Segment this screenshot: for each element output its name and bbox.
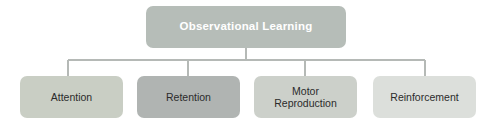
child-node-reinforcement-label: Reinforcement [386,91,462,103]
child-node-motor-reproduction: Motor Reproduction [254,76,357,118]
root-node-label: Observational Learning [180,20,313,34]
child-node-attention: Attention [20,76,123,118]
child-node-reinforcement: Reinforcement [373,76,476,118]
root-node-observational-learning: Observational Learning [146,6,346,48]
child-node-attention-label: Attention [47,91,96,103]
child-node-retention-label: Retention [162,91,215,103]
observational-learning-diagram: Observational Learning Attention Retenti… [0,0,495,129]
child-node-motor-reproduction-label: Motor Reproduction [270,85,340,110]
child-node-retention: Retention [137,76,240,118]
